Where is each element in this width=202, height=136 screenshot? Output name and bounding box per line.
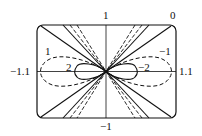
y-max-label: 1	[103, 10, 109, 21]
contour-label-1: 1	[45, 46, 51, 57]
contour-label-2: 2	[66, 62, 72, 73]
contour-label-neg2: −2	[138, 62, 150, 73]
contour-label-neg1: −1	[159, 46, 171, 57]
x-max-label: 1.1	[179, 66, 193, 77]
origin-point	[104, 70, 107, 73]
contour-label-0: 0	[170, 10, 176, 21]
y-min-label: −1	[100, 121, 112, 132]
x-min-label: −1.1	[10, 66, 30, 77]
